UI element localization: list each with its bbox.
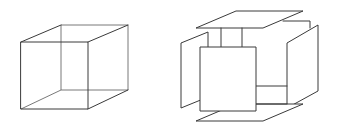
cube-back-face [61, 25, 128, 90]
right-plate [287, 25, 318, 108]
back-plate [283, 21, 310, 28]
figure-svg: Necker wireframe cube Exploded cube with… [0, 0, 337, 133]
cube-edge-top-left [21, 25, 61, 42]
top-plate [196, 11, 303, 28]
cube-front-face [21, 42, 88, 109]
cube-edge-top-right [88, 25, 128, 42]
figure-canvas: Necker cube and exploded plate cube Neck… [0, 0, 337, 133]
exploded-cube: Exploded cube with separated face plates [181, 11, 318, 121]
cube-edge-bottom-right [88, 90, 128, 109]
cube-edge-bottom-left [21, 90, 61, 109]
wireframe-cube: Necker wireframe cube [21, 25, 128, 109]
front-plate [200, 47, 256, 111]
